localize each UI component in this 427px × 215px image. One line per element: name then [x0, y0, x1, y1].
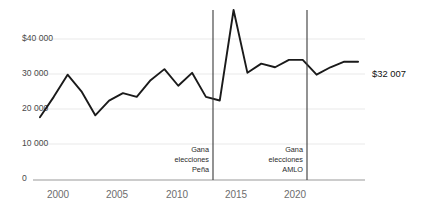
chart-svg: $40 000 30 000 20 000 10 000 0 2000 2005… [0, 0, 427, 215]
annotation-pena-line-2: elecciones [175, 155, 210, 164]
x-tick-label-2015: 2015 [225, 189, 248, 200]
event-marker-amlo: Gana elecciones AMLO [269, 10, 307, 180]
annotation-pena-line-3: Peña [192, 165, 210, 174]
line-chart: $40 000 30 000 20 000 10 000 0 2000 2005… [0, 0, 427, 215]
data-line-series [40, 10, 358, 117]
y-tick-label-0: 0 [22, 173, 27, 183]
event-marker-pena: Gana elecciones Peña [175, 10, 213, 180]
end-value-label: $32 007 [372, 68, 406, 79]
gridlines [33, 39, 365, 144]
y-tick-label-30000: 30 000 [22, 68, 49, 78]
y-tick-label-10000: 10 000 [22, 138, 49, 148]
y-axis-tick-labels: $40 000 30 000 20 000 10 000 0 [22, 33, 53, 183]
annotation-amlo-line-1: Gana [285, 145, 304, 154]
annotation-amlo-line-3: AMLO [282, 165, 303, 174]
x-tick-label-2010: 2010 [166, 189, 189, 200]
x-tick-label-2000: 2000 [47, 189, 70, 200]
x-tick-label-2020: 2020 [284, 189, 307, 200]
annotation-pena-line-1: Gana [191, 145, 210, 154]
y-tick-label-40000: $40 000 [22, 33, 53, 43]
x-tick-label-2005: 2005 [106, 189, 129, 200]
x-axis-tick-labels: 2000 2005 2010 2015 2020 [47, 189, 307, 200]
annotation-amlo-line-2: elecciones [269, 155, 304, 164]
